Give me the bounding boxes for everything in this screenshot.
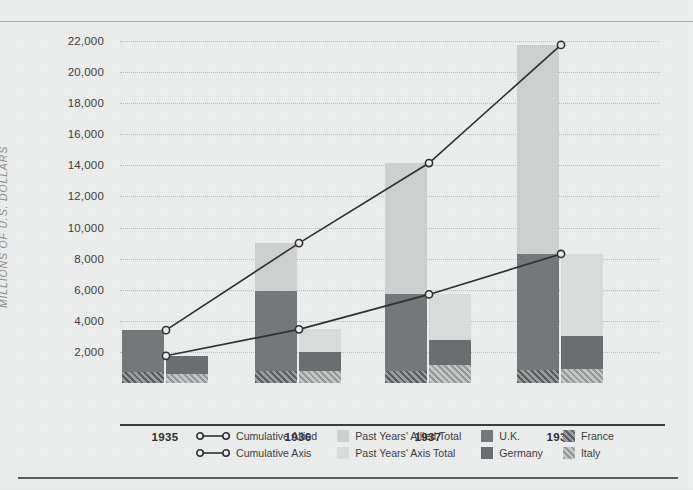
- line-marker-icon: [295, 239, 302, 246]
- top-divider: [0, 21, 693, 22]
- x-axis-tick-label: 1935: [152, 431, 179, 443]
- y-axis-tick-label: 12,000: [68, 190, 104, 202]
- y-axis-tick-label: 14,000: [68, 159, 104, 171]
- swatch-icon: [481, 447, 493, 459]
- swatch-hatch-icon: [563, 430, 575, 442]
- legend-item[interactable]: Past Years' Axis Total: [337, 447, 461, 459]
- bottom-divider: [18, 477, 678, 479]
- swatch-icon: [337, 430, 349, 442]
- swatch-icon: [481, 430, 493, 442]
- y-axis-tick-label: 22,000: [68, 35, 104, 47]
- line-marker-icon: [425, 159, 432, 166]
- line-marker-icon: [557, 41, 564, 48]
- legend-item-label: Past Years' Allied Total: [355, 431, 461, 442]
- x-axis-baseline: [120, 424, 665, 426]
- line-marker-icon: [295, 326, 302, 333]
- y-axis-tick-label: 4,000: [74, 315, 104, 327]
- chart-legend: Cumulative AlliedPast Years' Allied Tota…: [196, 430, 614, 459]
- legend-item[interactable]: Cumulative Allied: [196, 431, 317, 442]
- legend-item[interactable]: France: [563, 430, 614, 442]
- line-marker-icon: [162, 352, 169, 359]
- chart-plot-area: 1935193619371938: [120, 41, 660, 383]
- y-axis-tick-label: 20,000: [68, 66, 104, 78]
- legend-item-label: Past Years' Axis Total: [355, 448, 455, 459]
- legend-item-label: U.K.: [499, 431, 520, 442]
- y-axis-tick-label: 2,000: [74, 346, 104, 358]
- cumulative-line-series: [120, 41, 660, 383]
- y-axis-title: MILLIONS OF U.S. DOLLARS: [0, 128, 9, 308]
- legend-item[interactable]: Germany: [481, 447, 543, 459]
- legend-item-label: Cumulative Allied: [236, 431, 317, 442]
- legend-item[interactable]: U.K.: [481, 430, 543, 442]
- y-axis-tick-label: 8,000: [74, 253, 104, 265]
- line-marker-icon: [196, 431, 230, 441]
- y-axis-tick-labels: 2,0004,0006,0008,00010,00012,00014,00016…: [0, 41, 112, 383]
- legend-item[interactable]: Cumulative Axis: [196, 448, 317, 459]
- line-marker-icon: [425, 291, 432, 298]
- line-marker-icon: [557, 250, 564, 257]
- swatch-hatch-icon: [563, 447, 575, 459]
- legend-item-label: Italy: [581, 448, 600, 459]
- y-axis-tick-label: 16,000: [68, 128, 104, 140]
- line-cumulative-axis: [166, 254, 561, 356]
- legend-item-label: Cumulative Axis: [236, 448, 311, 459]
- line-cumulative-allied: [166, 45, 561, 330]
- y-axis-tick-label: 18,000: [68, 97, 104, 109]
- legend-item-label: Germany: [499, 448, 543, 459]
- line-marker-icon: [196, 448, 230, 458]
- legend-item-label: France: [581, 431, 614, 442]
- swatch-icon: [337, 447, 349, 459]
- y-axis-tick-label: 6,000: [74, 284, 104, 296]
- legend-item[interactable]: Past Years' Allied Total: [337, 430, 461, 442]
- line-marker-icon: [162, 327, 169, 334]
- y-axis-tick-label: 10,000: [68, 222, 104, 234]
- legend-item[interactable]: Italy: [563, 447, 614, 459]
